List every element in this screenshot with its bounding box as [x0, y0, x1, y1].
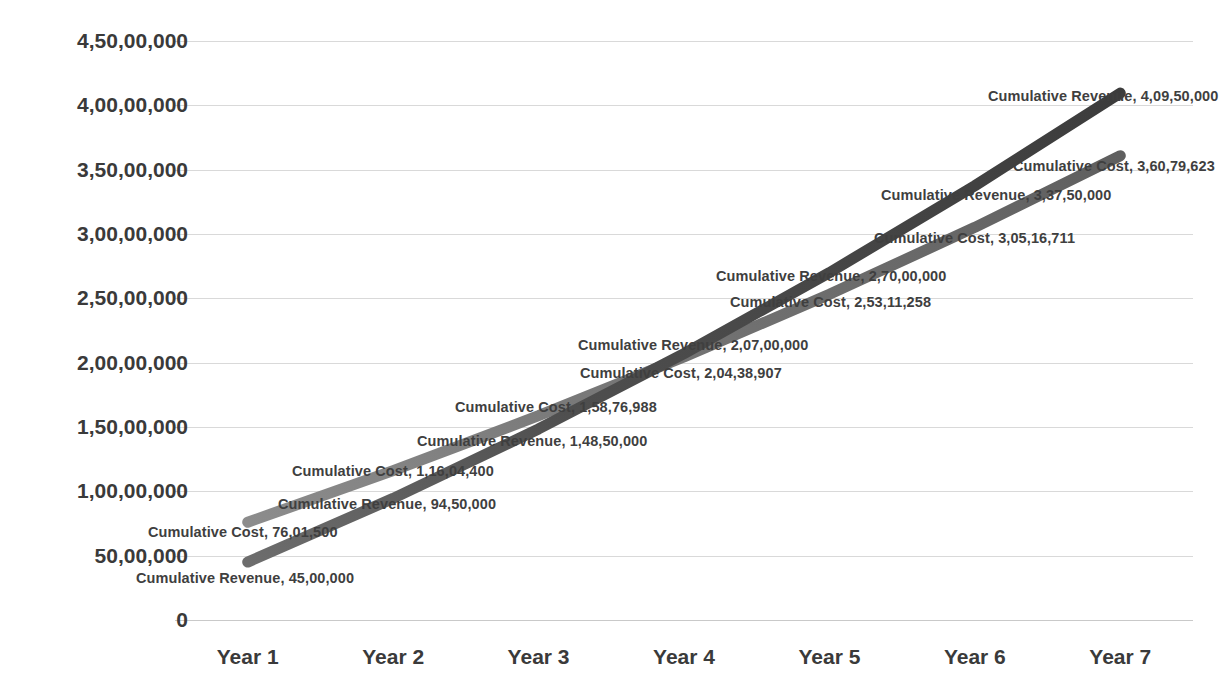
x-axis-tick-label-7: Year 7	[1089, 645, 1151, 669]
y-axis-tick-label: 4,50,00,000	[77, 29, 188, 53]
data-label: Cumulative Cost, 76,01,500	[148, 524, 338, 540]
y-axis-tick-label: 1,50,00,000	[77, 415, 188, 439]
gridline-0	[175, 620, 1193, 621]
y-axis-tick-label: 1,00,00,000	[77, 479, 188, 503]
data-label: Cumulative Cost, 2,53,11,258	[730, 294, 931, 310]
gridline-5	[175, 298, 1193, 299]
data-label: Cumulative Revenue, 3,37,50,000	[881, 187, 1111, 203]
data-label: Cumulative Cost, 1,16,04,400	[292, 463, 494, 479]
x-axis-tick-label-1: Year 1	[217, 645, 279, 669]
y-axis-tick-label: 3,00,00,000	[77, 222, 188, 246]
gridline-2	[175, 491, 1193, 492]
y-axis-tick-label: 2,50,00,000	[77, 286, 188, 310]
x-axis-tick-label-4: Year 4	[653, 645, 715, 669]
data-label: Cumulative Revenue, 2,70,00,000	[716, 268, 946, 284]
data-label: Cumulative Cost, 1,58,76,988	[455, 399, 657, 415]
data-label: Cumulative Revenue, 4,09,50,000	[988, 88, 1218, 104]
data-label: Cumulative Revenue, 45,00,000	[136, 570, 354, 586]
data-label: Cumulative Cost, 2,04,38,907	[580, 365, 782, 381]
data-label: Cumulative Cost, 3,60,79,623	[1013, 158, 1215, 174]
x-axis-tick-label-6: Year 6	[944, 645, 1006, 669]
chart-title: Cumulative Revenue vs Cumulative Cost	[0, 0, 1231, 4]
gridline-4	[175, 363, 1193, 364]
data-label: Cumulative Cost, 3,05,16,711	[874, 230, 1075, 246]
x-axis-tick-label-2: Year 2	[362, 645, 424, 669]
y-axis-tick-label: 3,50,00,000	[77, 158, 188, 182]
data-label: Cumulative Revenue, 2,07,00,000	[578, 337, 808, 353]
y-axis-tick-label: 4,00,00,000	[77, 93, 188, 117]
data-label: Cumulative Revenue, 1,48,50,000	[417, 433, 647, 449]
gridline-9	[175, 41, 1193, 42]
x-axis-tick-label-3: Year 3	[508, 645, 570, 669]
cumulative-revenue-cost-chart: Cumulative Revenue vs Cumulative Cost 05…	[0, 0, 1231, 699]
x-axis-tick-label-5: Year 5	[798, 645, 860, 669]
y-axis-tick-label: 50,00,000	[95, 544, 188, 568]
y-axis-tick-label: 2,00,00,000	[77, 351, 188, 375]
gridline-1	[175, 556, 1193, 557]
data-label: Cumulative Revenue, 94,50,000	[278, 496, 496, 512]
gridline-8	[175, 105, 1193, 106]
gridline-3	[175, 427, 1193, 428]
y-axis-tick-label: 0	[176, 608, 188, 632]
